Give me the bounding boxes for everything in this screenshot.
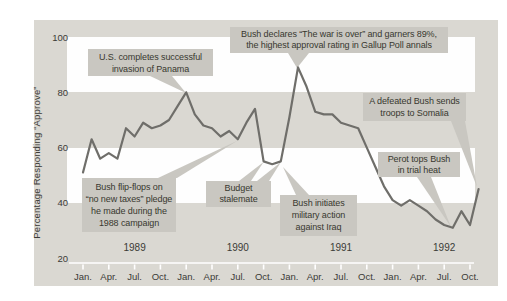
annotation-iraq: Bush initiates military action against I…	[280, 195, 357, 236]
annotation-panama: U.S. completes successful invasion of Pa…	[88, 49, 213, 76]
callout-leader-flipflops	[158, 141, 238, 179]
annotation-line: U.S. completes successful	[88, 51, 213, 63]
annotation-perot: Perot tops Bush in trial heat	[378, 152, 460, 177]
year-label: 1990	[216, 242, 260, 253]
callout-leader-perot	[417, 177, 451, 227]
annotation-line: military action	[280, 209, 357, 221]
y-tick-label: 100	[30, 32, 68, 43]
x-axis-ticks	[83, 265, 470, 270]
x-tick-label: Apr.	[302, 271, 328, 282]
callout-leader-war-over	[288, 53, 309, 68]
annotation-line: he made during the	[82, 205, 176, 217]
x-tick-label: Apr.	[199, 271, 225, 282]
x-tick-label: Oct.	[457, 271, 483, 282]
callout-leader-budget-a	[239, 162, 264, 181]
annotation-war-over: Bush declares “The war is over” and garn…	[230, 27, 448, 53]
x-tick-label: Jan.	[70, 271, 96, 282]
x-tick-label: Apr.	[96, 271, 122, 282]
y-tick-label: 40	[30, 197, 68, 208]
callout-leader-iraq	[283, 167, 309, 195]
x-tick-label: Oct.	[251, 271, 277, 282]
approval-chart-figure: Percentage Responding “Approve” 10080604…	[0, 0, 507, 301]
x-tick-label: Jul.	[328, 271, 354, 282]
annotation-somalia: A defeated Bush sends troops to Somalia	[363, 93, 466, 121]
annotation-line: Bush flip-flops on	[82, 181, 176, 193]
year-label: 1991	[319, 242, 363, 253]
x-tick-label: Jul.	[225, 271, 251, 282]
annotation-line: Bush declares “The war is over” and garn…	[230, 29, 448, 40]
annotation-line: the highest approval rating in Gallup Po…	[230, 40, 448, 51]
annotation-line: 1988 campaign	[82, 217, 176, 229]
x-tick-label: Jul.	[122, 271, 148, 282]
x-tick-label: Oct.	[354, 271, 380, 282]
x-tick-label: Jul.	[431, 271, 457, 282]
x-tick-label: Jan.	[276, 271, 302, 282]
callout-leader-panama	[150, 76, 186, 93]
annotation-line: invasion of Panama	[88, 63, 213, 75]
annotation-line: “no new taxes” pledge	[82, 193, 176, 205]
annotation-line: stalemate	[206, 194, 271, 205]
annotation-line: A defeated Bush sends	[363, 95, 466, 107]
year-label: 1989	[113, 242, 157, 253]
x-tick-label: Jan.	[173, 271, 199, 282]
y-tick-label: 20	[30, 253, 68, 264]
x-tick-label: Jan.	[380, 271, 406, 282]
annotation-budget-stalemate: Budget stalemate	[206, 181, 271, 207]
x-tick-label: Apr.	[405, 271, 431, 282]
annotation-line: Perot tops Bush	[378, 154, 460, 165]
annotation-line: Bush initiates	[280, 197, 357, 209]
annotation-flipflops: Bush flip-flops on “no new taxes” pledge…	[82, 178, 176, 232]
annotation-line: in trial heat	[378, 165, 460, 176]
x-tick-label: Oct.	[147, 271, 173, 282]
y-tick-label: 60	[30, 142, 68, 153]
annotation-line: troops to Somalia	[363, 107, 466, 119]
year-label: 1992	[422, 242, 466, 253]
annotation-line: Budget	[206, 183, 271, 194]
annotation-line: against Iraq	[280, 221, 357, 233]
y-tick-label: 80	[30, 87, 68, 98]
